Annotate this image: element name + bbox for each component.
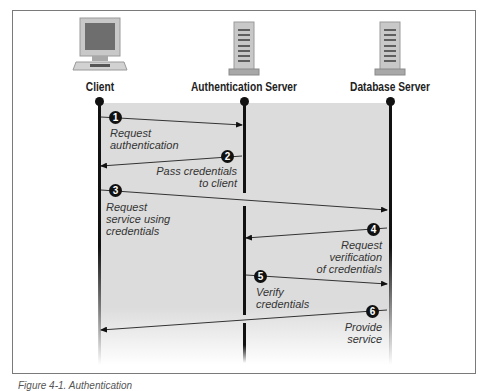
step-1-marker: 1: [109, 111, 122, 124]
step-3-marker: 3: [109, 184, 122, 197]
figure-caption: Figure 4-1. Authentication: [18, 380, 132, 391]
step-4-marker: 4: [367, 223, 380, 236]
step-3-label: Request service using credentials: [106, 201, 170, 237]
step-4-label: Request verification of credentials: [290, 239, 382, 275]
step-2-marker: 2: [221, 150, 234, 163]
step-6-marker: 6: [366, 305, 379, 318]
step-1-label: Request authentication: [110, 127, 179, 151]
step-5-label: Verify credentials: [256, 286, 309, 310]
step-6-label: Provide service: [320, 321, 382, 345]
step-5-marker: 5: [254, 270, 267, 283]
step-2-label: Pass credentials to client: [148, 165, 237, 189]
